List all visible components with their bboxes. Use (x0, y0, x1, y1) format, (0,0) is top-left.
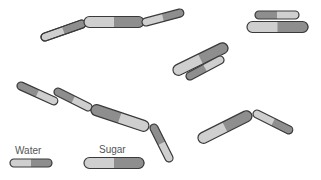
legend-water-swatch (10, 159, 52, 167)
water-molecule (141, 8, 185, 27)
legend-sugar-swatch (84, 158, 145, 169)
legend (10, 158, 145, 169)
sugar-molecule (84, 17, 144, 28)
middle-right-group (171, 41, 230, 82)
water-molecule (40, 19, 87, 42)
water-molecule (252, 109, 294, 136)
sugar-molecule (247, 22, 309, 33)
sugar-molecule (90, 103, 151, 133)
top-right-group (247, 11, 309, 33)
sugar-molecule (196, 109, 254, 145)
water-molecule (53, 87, 94, 113)
legend-sugar-label: Sugar (99, 144, 126, 155)
water-molecule (149, 123, 175, 164)
legend-water-label: Water (15, 145, 41, 156)
top-chain (40, 8, 185, 42)
molecule-diagram (0, 0, 321, 180)
water-molecule (16, 81, 59, 106)
bottom-right-group (196, 109, 294, 146)
water-molecule (255, 11, 299, 19)
